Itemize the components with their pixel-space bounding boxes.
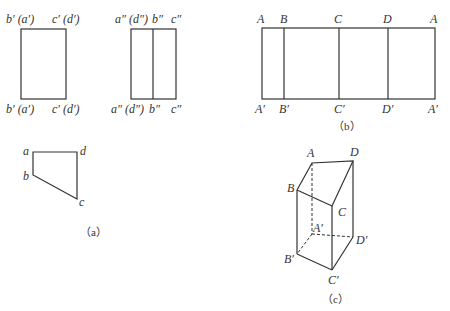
side-view: a″ (d″) b″ c″ a″ (d″) b″ c″ bbox=[111, 12, 182, 116]
label-b-top-A2: A bbox=[429, 12, 438, 26]
label-b-bottom-C: C′ bbox=[334, 102, 345, 116]
prism-view: A D B C A′ D′ B′ C′ （c） bbox=[284, 145, 368, 305]
label-front-bottom-right: c′ (d′) bbox=[52, 102, 80, 116]
label-b-bottom-A2: A′ bbox=[427, 102, 438, 116]
label-front-bottom-left: b′ (a′) bbox=[6, 102, 34, 116]
caption-a: （a） bbox=[80, 226, 107, 238]
label-top-c: c bbox=[79, 195, 85, 209]
label-b-top-B: B bbox=[280, 12, 288, 26]
hidden-edge-A1B1 bbox=[297, 234, 312, 254]
label-side-top-left: a″ (d″) bbox=[115, 12, 148, 26]
label-c-C1: C′ bbox=[328, 273, 339, 287]
label-c-A: A bbox=[306, 146, 315, 160]
top-view-quad bbox=[33, 152, 77, 199]
diagram-canvas: b′ (a′) c′ (d′) b′ (a′) c′ (d′) a″ (d″) … bbox=[0, 0, 450, 311]
label-side-bottom-right: c″ bbox=[171, 102, 182, 116]
label-c-A1: A′ bbox=[312, 221, 323, 235]
label-c-C: C bbox=[338, 205, 347, 219]
label-b-bottom-A: A′ bbox=[254, 102, 265, 116]
label-side-bottom-left: a″ (d″) bbox=[111, 102, 144, 116]
development-rect bbox=[262, 28, 435, 99]
label-b-top-A: A bbox=[256, 12, 265, 26]
caption-c: （c） bbox=[322, 293, 349, 305]
label-b-top-C: C bbox=[334, 12, 343, 26]
label-b-top-D: D bbox=[382, 12, 392, 26]
edge-B1C1 bbox=[297, 254, 332, 270]
label-top-a: a bbox=[23, 144, 29, 158]
label-b-bottom-B: B′ bbox=[279, 102, 289, 116]
label-top-b: b bbox=[23, 169, 29, 183]
front-view-rect bbox=[21, 29, 66, 99]
label-side-top-mid: b″ bbox=[152, 12, 164, 26]
label-top-d: d bbox=[80, 144, 87, 158]
top-view: a d b c （a） bbox=[23, 144, 107, 238]
label-side-bottom-mid: b″ bbox=[149, 102, 161, 116]
label-side-top-right: c″ bbox=[171, 12, 182, 26]
label-front-top-left: b′ (a′) bbox=[6, 12, 34, 26]
label-front-top-right: c′ (d′) bbox=[52, 12, 80, 26]
label-c-B: B bbox=[287, 181, 295, 195]
development-view: A B C D A A′ B′ C′ D′ A′ （b） bbox=[254, 12, 438, 132]
prism-top-face bbox=[297, 161, 353, 206]
label-b-bottom-D: D′ bbox=[381, 102, 394, 116]
caption-b: （b） bbox=[333, 120, 361, 132]
label-c-D1: D′ bbox=[355, 233, 368, 247]
front-view: b′ (a′) c′ (d′) b′ (a′) c′ (d′) bbox=[6, 12, 80, 116]
label-c-B1: B′ bbox=[284, 252, 294, 266]
label-c-D: D bbox=[349, 145, 359, 159]
edge-C1D1 bbox=[332, 237, 353, 270]
